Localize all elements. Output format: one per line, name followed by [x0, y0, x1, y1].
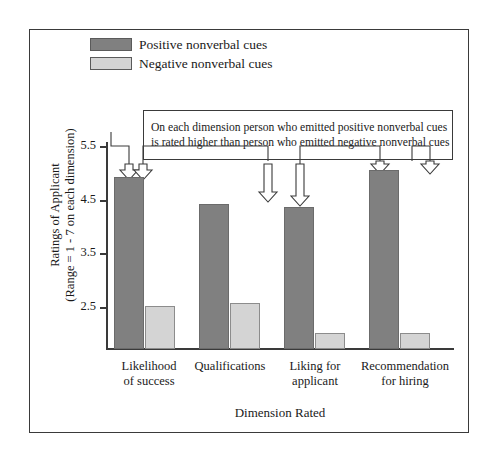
cat3-line1: Liking for — [270, 359, 360, 374]
y-axis-title: Ratings of Applicant (Range = 1 - 7 on e… — [48, 120, 78, 310]
y-tick-mark-3-5 — [100, 253, 107, 255]
plot-area: 5.5 4.5 3.5 2.5 Ratings of Applicant (Ra… — [30, 30, 470, 434]
cat4-line1: Recommendation — [352, 359, 458, 374]
x-category-label-qualifications: Qualifications — [184, 359, 276, 374]
cat3-line2: applicant — [270, 374, 360, 389]
cat1-line2: of success — [104, 374, 194, 389]
bar-positive-liking-for-applicant — [284, 207, 314, 349]
y-axis-line — [106, 142, 108, 350]
x-category-label-liking-for-applicant: Liking for applicant — [270, 359, 360, 389]
x-category-label-recommendation-for-hiring: Recommendation for hiring — [352, 359, 458, 389]
bar-negative-qualifications — [230, 303, 260, 349]
cat1-line1: Likelihood — [104, 359, 194, 374]
bar-negative-recommendation-for-hiring — [400, 333, 430, 349]
y-tick-mark-2-5 — [100, 307, 107, 309]
x-axis-title: Dimension Rated — [106, 405, 454, 421]
bar-positive-qualifications — [199, 204, 229, 349]
bar-positive-recommendation-for-hiring — [369, 170, 399, 349]
y-tick-mark-4-5 — [100, 200, 107, 202]
y-tick-mark-5-5 — [100, 146, 107, 148]
cat4-line2: for hiring — [352, 374, 458, 389]
chart-frame: Positive nonverbal cues Negative nonverb… — [29, 29, 469, 433]
cat2-line1: Qualifications — [184, 359, 276, 374]
y-axis-title-line-1: Ratings of Applicant — [48, 120, 63, 310]
bar-negative-liking-for-applicant — [315, 333, 345, 349]
y-axis-title-line-2: (Range = 1 - 7 on each dimension) — [63, 120, 78, 310]
bar-negative-likelihood-of-success — [145, 306, 175, 349]
bar-positive-likelihood-of-success — [114, 177, 144, 349]
x-category-label-likelihood-of-success: Likelihood of success — [104, 359, 194, 389]
